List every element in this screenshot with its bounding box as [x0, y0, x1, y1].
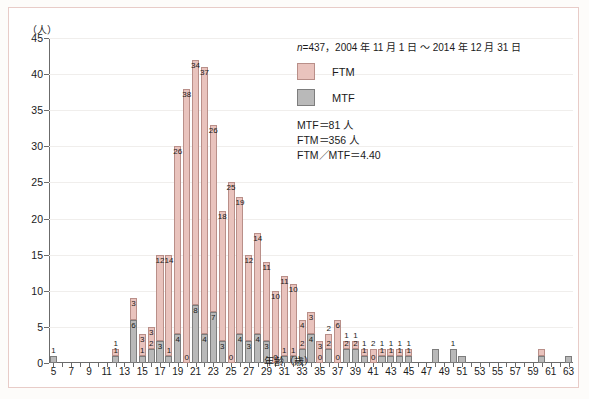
bar-segment-mtf — [210, 312, 217, 363]
legend-block: n=437，2004 年 11 月 1 日 ～ 2014 年 12 月 31 日… — [297, 39, 521, 164]
x-axis-title: 年齢（歳） — [264, 353, 314, 368]
bar-segment-ftm — [378, 349, 385, 356]
y-axis-tick — [44, 219, 49, 220]
bar-segment-ftm — [174, 146, 181, 334]
y-axis-tick-label: 10 — [17, 286, 43, 297]
bar-segment-mtf — [450, 349, 457, 363]
bar-column — [263, 262, 270, 363]
bar-column — [219, 211, 226, 363]
y-axis-tick — [44, 255, 49, 256]
x-axis-tick-label: 63 — [558, 367, 580, 377]
bar-column — [378, 349, 385, 363]
gridline — [49, 182, 573, 183]
bar-column — [334, 320, 341, 363]
bar-segment-ftm — [112, 349, 119, 356]
bar-segment-ftm — [263, 262, 270, 341]
bar-segment-mtf — [219, 341, 226, 363]
bar-segment-ftm — [165, 255, 172, 356]
bar-column — [112, 349, 119, 363]
y-axis-line — [49, 38, 50, 363]
bar-segment-ftm — [281, 276, 288, 355]
y-axis-tick-label: 45 — [17, 33, 43, 44]
y-axis-tick — [44, 363, 49, 364]
bar-segment-ftm — [361, 349, 368, 356]
bar-segment-ftm — [201, 67, 208, 334]
bar-column — [148, 327, 155, 363]
y-axis-tick-label: 5 — [17, 322, 43, 333]
bar-column — [290, 284, 297, 363]
bar-column — [139, 334, 146, 363]
bar-segment-ftm — [183, 89, 190, 363]
bar-segment-mtf — [343, 349, 350, 363]
bar-column — [236, 197, 243, 363]
bar-segment-ftm — [290, 284, 297, 356]
legend-swatch-ftm-icon — [297, 63, 315, 80]
bar-segment-mtf — [165, 356, 172, 363]
y-axis-tick-label: 15 — [17, 250, 43, 261]
bar-column — [325, 334, 332, 363]
bar-segment-mtf — [139, 356, 146, 363]
legend-label-mtf: MTF — [332, 92, 355, 104]
bar-segment-mtf — [458, 356, 465, 363]
chart-frame: （人） 111631323312114426038834437726318025… — [8, 7, 579, 388]
bar-segment-mtf — [236, 334, 243, 363]
gridline — [49, 255, 573, 256]
bar-segment-mtf — [245, 341, 252, 363]
bar-segment-ftm — [192, 60, 199, 306]
bar-segment-mtf — [174, 334, 181, 363]
sample-annotation: n=437，2004 年 11 月 1 日 ～ 2014 年 12 月 31 日 — [297, 39, 521, 54]
y-axis-tick — [44, 182, 49, 183]
y-axis-tick — [44, 291, 49, 292]
bar-column — [565, 356, 572, 363]
bar-column — [156, 255, 163, 363]
bar-column — [432, 349, 439, 363]
y-axis-tick — [44, 110, 49, 111]
bar-column — [387, 349, 394, 363]
y-axis-tick-label: 25 — [17, 177, 43, 188]
bar-column — [228, 182, 235, 363]
bar-column — [130, 298, 137, 363]
bar-column — [183, 89, 190, 363]
bar-segment-mtf — [352, 349, 359, 363]
bar-segment-ftm — [245, 255, 252, 342]
bar-segment-ftm — [156, 255, 163, 342]
bar-column — [174, 146, 181, 363]
statistics-line: FTM＝356 人 — [297, 133, 521, 148]
bar-segment-ftm — [130, 298, 137, 320]
bar-segment-ftm — [299, 320, 306, 349]
bar-segment-ftm — [254, 233, 261, 334]
bar-column — [254, 233, 261, 363]
bar-segment-mtf — [148, 349, 155, 363]
bar-column — [458, 356, 465, 363]
bar-column — [343, 341, 350, 363]
bar-segment-mtf — [325, 349, 332, 363]
bar-column — [352, 341, 359, 363]
legend-item-mtf: MTF — [297, 89, 521, 106]
y-axis-tick-label: 20 — [17, 214, 43, 225]
bar-segment-ftm — [334, 320, 341, 363]
bar-segment-mtf — [192, 305, 199, 363]
y-axis-tick — [44, 74, 49, 75]
statistics-line: MTF＝81 人 — [297, 118, 521, 133]
bar-segment-ftm — [139, 334, 146, 356]
bar-segment-ftm — [325, 334, 332, 348]
bar-segment-mtf — [565, 356, 572, 363]
bar-column — [405, 349, 412, 363]
bar-segment-ftm — [316, 341, 323, 363]
bar-column — [50, 356, 57, 363]
bar-segment-ftm — [396, 349, 403, 356]
bar-column — [210, 125, 217, 363]
y-axis-tick-label: 0 — [17, 358, 43, 369]
y-axis-tick — [44, 38, 49, 39]
bar-segment-ftm — [370, 349, 377, 363]
statistics-line: FTM／MTF＝4.40 — [297, 148, 521, 163]
gridline — [49, 219, 573, 220]
bar-segment-ftm — [343, 341, 350, 348]
bar-segment-ftm — [148, 327, 155, 349]
legend-item-ftm: FTM — [297, 63, 521, 80]
y-axis-tick-label: 40 — [17, 69, 43, 80]
y-axis-tick — [44, 146, 49, 147]
bar-segment-ftm — [387, 349, 394, 356]
bar-segment-mtf — [112, 356, 119, 363]
gridline — [49, 291, 573, 292]
